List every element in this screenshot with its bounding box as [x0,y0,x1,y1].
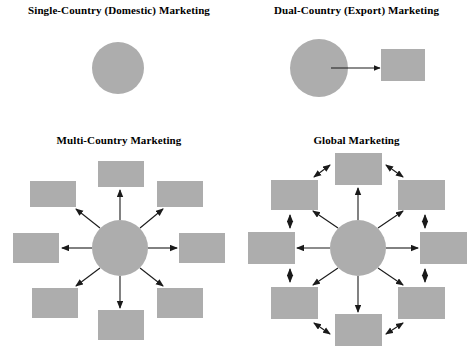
satellite-rect [381,49,425,81]
hub-circle [92,220,148,276]
ring-arrow [314,165,330,177]
hub-arrow [378,211,403,228]
satellite-rect [30,181,76,207]
diagram-multi-country [0,120,238,359]
hub-arrow [76,268,100,286]
satellite-rect [98,310,144,340]
hub-arrow [140,209,163,228]
panel-single-country: Single-Country (Domestic) Marketing [0,0,238,120]
hub-arrow [313,211,338,228]
satellite-rect [13,233,59,263]
hub-arrow [378,268,403,285]
ring-arrow [314,323,330,334]
panel-global: Global Marketing [238,120,475,359]
satellite-rect [335,153,382,185]
hub-arrow [140,268,163,286]
satellite-rect [335,314,382,346]
satellite-rect [420,232,467,264]
hub-arrow [76,209,100,228]
satellite-rect [271,180,318,210]
diagram-global [238,120,475,359]
hub-circle [92,42,144,94]
satellite-rect [98,161,144,187]
satellite-rect [157,181,203,207]
hub-arrow [313,268,338,285]
hub-circle [330,220,386,276]
diagram-dual-country [238,0,475,120]
satellite-rect [248,232,295,264]
satellite-rect [32,288,78,318]
diagram-single-country [0,0,238,120]
satellite-rect [271,287,318,319]
ring-arrow [386,323,403,334]
satellite-rect [179,233,225,263]
panel-multi-country: Multi-Country Marketing [0,120,238,359]
ring-arrow [386,165,403,177]
panel-dual-country: Dual-Country (Export) Marketing [238,0,475,120]
satellite-rect [398,287,445,319]
satellite-rect [398,180,445,210]
satellite-rect [157,288,203,318]
